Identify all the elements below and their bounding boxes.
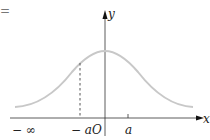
- neg-infinity-label: − ∞: [12, 124, 36, 136]
- pos-a-label: a: [125, 124, 132, 136]
- bell-curve: [15, 51, 193, 107]
- y-axis-label: y: [108, 8, 115, 20]
- y-axis-arrow-icon: [103, 10, 108, 19]
- x-axis-label: x: [203, 113, 210, 125]
- origin-label: O: [92, 124, 102, 136]
- neg-a-label: − a: [71, 124, 92, 136]
- bell-curve-diagram: [0, 0, 210, 140]
